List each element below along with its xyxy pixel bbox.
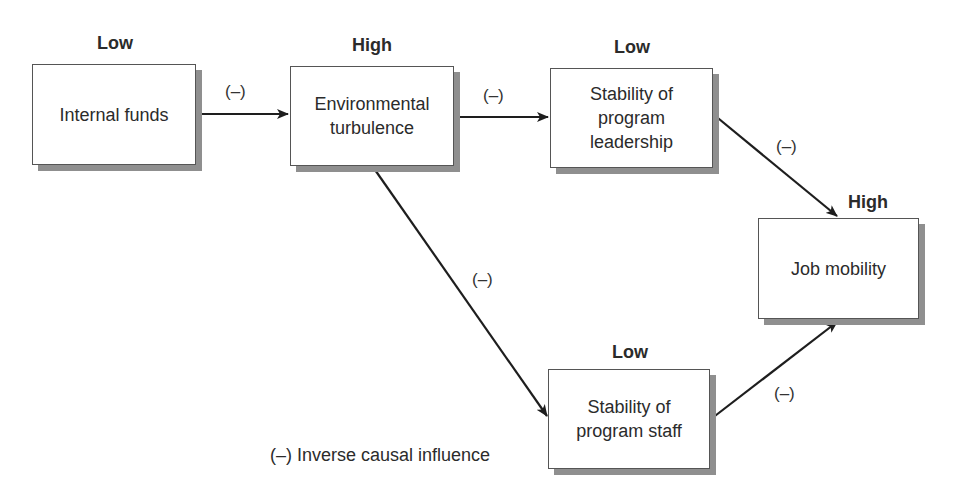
arrow-staff-to-mobility <box>711 322 837 419</box>
node-stability-staff-line-2: program staff <box>576 419 682 443</box>
node-environmental-turbulence-line-2: turbulence <box>314 116 429 140</box>
legend-inverse-causal-influence: (–) Inverse causal influence <box>270 445 490 466</box>
node-stability-leadership-line-3: leadership <box>590 130 673 154</box>
node-internal-funds: Internal funds <box>32 64 196 165</box>
level-label-job-mobility: High <box>828 192 908 213</box>
arrow-turbulence-to-staff <box>373 167 547 416</box>
node-stability-leadership-line-2: program <box>590 106 673 130</box>
level-label-internal-funds: Low <box>75 33 155 54</box>
sign-staff-to-mobility: (–) <box>774 384 795 404</box>
sign-funds-to-turbulence: (–) <box>225 82 246 102</box>
node-stability-staff-line-1: Stability of <box>576 395 682 419</box>
sign-turbulence-to-staff: (–) <box>472 270 493 290</box>
level-label-stability-leadership: Low <box>592 37 672 58</box>
node-environmental-turbulence: Environmental turbulence <box>290 66 454 166</box>
node-internal-funds-line-1: Internal funds <box>59 103 168 127</box>
causal-diagram: Low High Low High Low Internal funds Env… <box>0 0 954 497</box>
node-job-mobility: Job mobility <box>758 218 919 319</box>
node-job-mobility-line-1: Job mobility <box>791 257 886 281</box>
sign-turbulence-to-leadership: (–) <box>483 86 504 106</box>
node-stability-staff: Stability of program staff <box>548 369 710 469</box>
node-stability-leadership-line-1: Stability of <box>590 82 673 106</box>
level-label-environmental-turbulence: High <box>332 35 412 56</box>
level-label-stability-staff: Low <box>590 342 670 363</box>
node-stability-leadership: Stability of program leadership <box>550 68 713 168</box>
arrow-leadership-to-mobility <box>713 114 837 216</box>
sign-leadership-to-mobility: (–) <box>776 137 797 157</box>
node-environmental-turbulence-line-1: Environmental <box>314 92 429 116</box>
